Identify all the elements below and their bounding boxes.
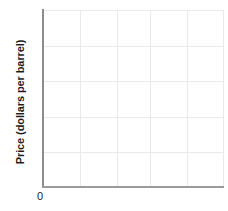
gridline-horizontal <box>43 10 224 11</box>
y-axis-line <box>42 9 44 188</box>
gridline-vertical <box>117 10 118 187</box>
y-axis-label-container: Price (dollars per barrel) <box>11 8 29 196</box>
x-axis-line <box>42 186 224 188</box>
gridline-horizontal <box>43 117 224 118</box>
origin-tick-label: 0 <box>37 190 43 203</box>
y-axis-label: Price (dollars per barrel) <box>11 8 29 196</box>
gridline-vertical <box>80 10 81 187</box>
gridline-vertical <box>187 10 188 187</box>
gridline-horizontal <box>43 46 224 47</box>
gridline-vertical <box>150 10 151 187</box>
gridline-horizontal <box>43 81 224 82</box>
plot-area <box>43 10 224 187</box>
gridline-horizontal <box>43 152 224 153</box>
chart-figure: Price (dollars per barrel) 0 <box>0 0 228 211</box>
gridline-vertical <box>223 10 224 187</box>
